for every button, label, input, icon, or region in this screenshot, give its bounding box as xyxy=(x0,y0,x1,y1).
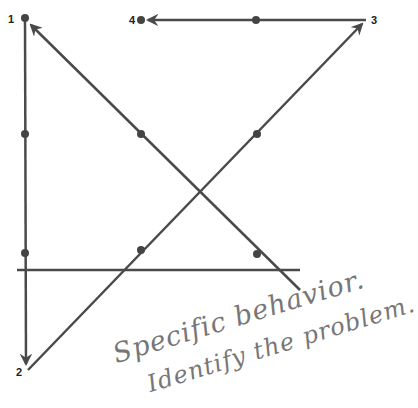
segment-to-1 xyxy=(31,25,300,290)
dot xyxy=(137,246,145,254)
dot xyxy=(253,250,261,258)
point-label-4: 4 xyxy=(129,14,135,26)
dot xyxy=(21,14,29,22)
point-label-2: 2 xyxy=(16,366,22,378)
dot xyxy=(21,249,29,257)
dot xyxy=(253,130,261,138)
segment-1-to-2 xyxy=(25,18,26,364)
dot xyxy=(252,16,260,24)
dot xyxy=(137,130,145,138)
dot xyxy=(21,130,29,138)
point-label-3: 3 xyxy=(371,14,377,26)
dot xyxy=(137,16,145,24)
point-label-1: 1 xyxy=(8,13,14,25)
